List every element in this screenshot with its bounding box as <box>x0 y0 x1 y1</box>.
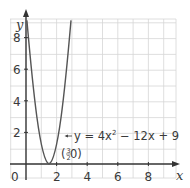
y-axis-arrow-icon <box>23 9 29 17</box>
y-tick-8: 8 <box>13 31 21 45</box>
vertex-annotation: ( 3 2 0) <box>61 147 82 162</box>
equation-annotation: y = 4x2 − 12x + 9 <box>65 129 180 143</box>
axes <box>10 9 180 180</box>
y-axis-label: y <box>15 17 24 32</box>
x-axis-label: x <box>176 168 184 183</box>
parabola-chart: 0 2 4 6 8 2 4 6 8 x y y = 4x2 − 12x + 9 … <box>0 0 190 188</box>
y-tick-2: 2 <box>13 126 21 140</box>
vertex-open: ( <box>61 147 66 161</box>
x-tick-6: 6 <box>114 170 122 184</box>
x-tick-8: 8 <box>145 170 153 184</box>
y-tick-4: 4 <box>13 95 21 109</box>
parabola-curve <box>27 20 71 164</box>
y-tick-6: 6 <box>13 63 21 77</box>
svg-text:y = 4x2 − 12x + 9: y = 4x2 − 12x + 9 <box>74 129 179 143</box>
x-tick-2: 2 <box>53 170 61 184</box>
vertex-close: 0) <box>70 147 82 161</box>
equation-suffix: − 12x + 9 <box>116 129 179 143</box>
equation-prefix: y = 4x <box>74 129 112 143</box>
x-tick-origin: 0 <box>11 170 19 184</box>
pointer-arrow-icon <box>65 135 69 138</box>
x-tick-4: 4 <box>84 170 92 184</box>
